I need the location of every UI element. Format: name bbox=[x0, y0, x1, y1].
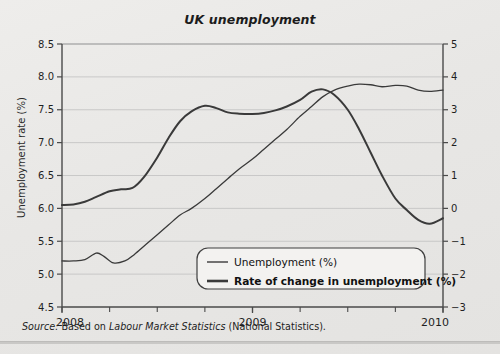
svg-text:7.0: 7.0 bbox=[38, 137, 54, 148]
svg-text:6.0: 6.0 bbox=[38, 203, 54, 214]
svg-text:Rate of change in unemployment: Rate of change in unemployment (%) bbox=[234, 275, 456, 287]
svg-text:−1: −1 bbox=[451, 236, 466, 247]
source-mid: Based on bbox=[58, 321, 109, 332]
svg-text:8.0: 8.0 bbox=[38, 71, 54, 82]
svg-text:6.5: 6.5 bbox=[38, 170, 54, 181]
svg-text:2: 2 bbox=[451, 137, 457, 148]
source-suffix: (National Statistics). bbox=[225, 321, 325, 332]
svg-text:5: 5 bbox=[451, 39, 457, 50]
svg-text:7.5: 7.5 bbox=[38, 104, 54, 115]
svg-text:3: 3 bbox=[451, 104, 457, 115]
svg-text:5.5: 5.5 bbox=[38, 236, 54, 247]
svg-text:4.5: 4.5 bbox=[38, 302, 54, 313]
svg-text:8.5: 8.5 bbox=[38, 39, 54, 50]
source-note: Source: Based on Labour Market Statistic… bbox=[22, 321, 326, 332]
svg-text:1: 1 bbox=[451, 170, 457, 181]
data-series bbox=[62, 84, 443, 263]
svg-text:4: 4 bbox=[451, 71, 457, 82]
svg-text:5.0: 5.0 bbox=[38, 269, 54, 280]
figure-panel: UK unemployment Unemployment rate (%) Ra… bbox=[0, 0, 500, 354]
chart-legend: Unemployment (%)Rate of change in unempl… bbox=[197, 248, 456, 289]
svg-text:−3: −3 bbox=[451, 302, 466, 313]
svg-text:0: 0 bbox=[451, 203, 457, 214]
footer-divider bbox=[0, 341, 500, 344]
source-publication: Labour Market Statistics bbox=[109, 321, 225, 332]
svg-text:2010: 2010 bbox=[421, 316, 449, 329]
chart-plot: 4.55.05.56.06.57.07.58.08.5−3−2−10123452… bbox=[0, 0, 500, 354]
source-prefix: Source: bbox=[22, 321, 58, 332]
svg-text:Unemployment (%): Unemployment (%) bbox=[234, 256, 337, 268]
